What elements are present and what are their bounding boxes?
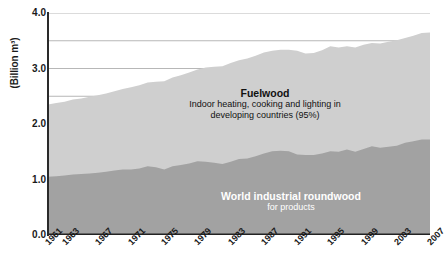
roundwood-annotation: World industrial roundwood for products — [196, 191, 386, 213]
y-axis-line — [47, 12, 49, 236]
fuelwood-annotation-line2: developing countries (95%) — [155, 110, 375, 121]
y-axis-tick: 3.0 — [20, 64, 46, 74]
y-axis-tick-group: 0.01.02.03.04.0 — [12, 0, 46, 277]
roundwood-annotation-line1: for products — [196, 202, 386, 213]
fuelwood-annotation-title: Fuelwood — [155, 88, 375, 99]
y-axis-tick: 2.0 — [20, 119, 46, 129]
y-axis-tick: 0.0 — [20, 230, 46, 240]
roundwood-annotation-title: World industrial roundwood — [196, 191, 386, 202]
fuelwood-annotation: Fuelwood Indoor heating, cooking and lig… — [155, 88, 375, 121]
y-axis-tick: 4.0 — [20, 8, 46, 18]
fuelwood-annotation-line1: Indoor heating, cooking and lighting in — [155, 99, 375, 110]
y-axis-tick: 1.0 — [20, 175, 46, 185]
